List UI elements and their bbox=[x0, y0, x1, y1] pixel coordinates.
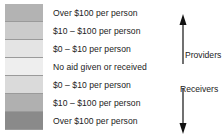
legend-label: $10 – $100 per person bbox=[53, 22, 147, 40]
legend-label: $10 – $100 per person bbox=[53, 94, 147, 112]
swatch-receivers-0-10 bbox=[5, 76, 43, 94]
legend-label: No aid given or received bbox=[53, 58, 147, 76]
label-column: Over $100 per person $10 – $100 per pers… bbox=[53, 4, 147, 130]
swatch-providers-0-10 bbox=[5, 40, 43, 58]
swatch-providers-over-100 bbox=[5, 4, 43, 22]
swatch-column bbox=[5, 4, 43, 130]
swatch-receivers-over-100 bbox=[5, 112, 43, 130]
receivers-label: Receivers bbox=[180, 84, 218, 94]
providers-label: Providers bbox=[185, 50, 221, 60]
swatch-providers-10-100 bbox=[5, 22, 43, 40]
legend-label: Over $100 per person bbox=[53, 4, 147, 22]
arrow-down-icon bbox=[178, 88, 188, 134]
swatch-no-aid bbox=[5, 58, 43, 76]
legend-label: $0 – $10 per person bbox=[53, 76, 147, 94]
legend-label: Over $100 per person bbox=[53, 112, 147, 130]
swatch-receivers-10-100 bbox=[5, 94, 43, 112]
legend-label: $0 – $10 per person bbox=[53, 40, 147, 58]
